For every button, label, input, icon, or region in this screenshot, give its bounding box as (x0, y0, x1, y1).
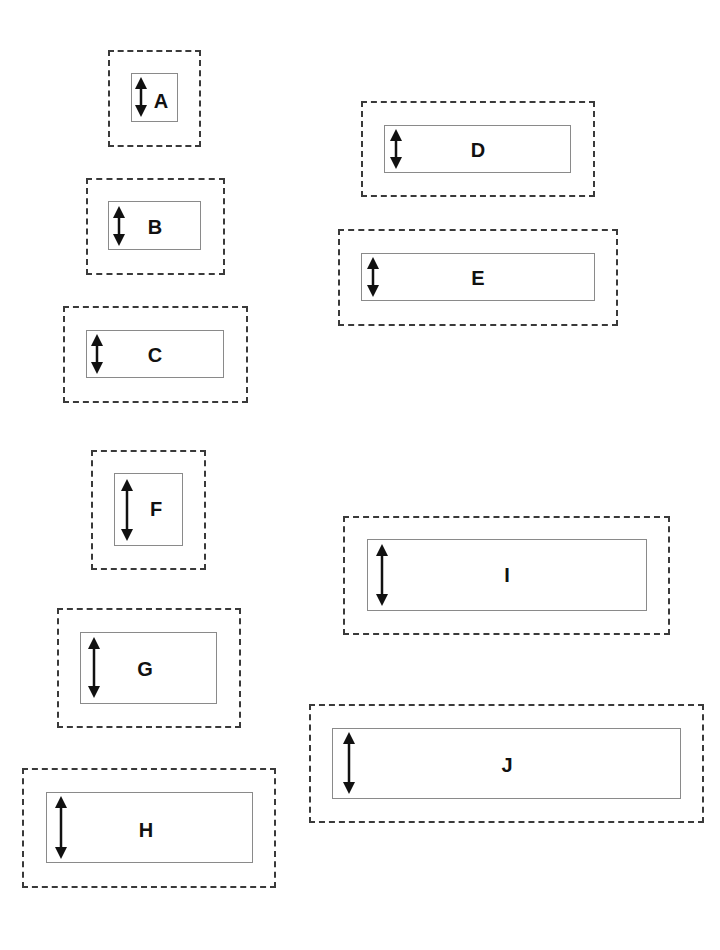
vertical-double-arrow-icon (342, 732, 356, 794)
box-label: E (471, 268, 484, 288)
box-label: J (501, 755, 512, 775)
vertical-double-arrow-icon (134, 77, 148, 117)
vertical-double-arrow-icon (112, 206, 126, 246)
vertical-double-arrow-icon (120, 479, 134, 541)
box-label: D (471, 140, 485, 160)
box-label: F (150, 499, 162, 519)
vertical-double-arrow-icon (366, 257, 380, 297)
vertical-double-arrow-icon (87, 637, 101, 698)
box-label: H (139, 820, 153, 840)
box-label: G (137, 659, 153, 679)
vertical-double-arrow-icon (375, 544, 389, 606)
box-label: A (154, 91, 168, 111)
box-label: I (504, 565, 510, 585)
box-label: B (148, 217, 162, 237)
vertical-double-arrow-icon (90, 334, 104, 374)
box-label: C (148, 345, 162, 365)
vertical-double-arrow-icon (54, 796, 68, 859)
vertical-double-arrow-icon (389, 129, 403, 169)
